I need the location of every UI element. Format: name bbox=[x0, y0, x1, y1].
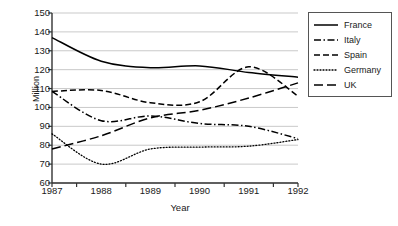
series-line-italy bbox=[52, 91, 298, 138]
y-tick-label: 90 bbox=[24, 121, 50, 131]
legend-item-germany[interactable]: Germany bbox=[309, 62, 391, 77]
series-line-spain bbox=[52, 67, 298, 105]
x-tick-label: 1990 bbox=[180, 185, 220, 196]
legend-label: Spain bbox=[344, 50, 367, 60]
series-line-germany bbox=[52, 134, 298, 165]
line-chart: Million 60708090100110120130140150 19871… bbox=[0, 0, 398, 226]
x-tick-label: 1991 bbox=[229, 185, 269, 196]
x-tick-label: 1988 bbox=[81, 185, 121, 196]
legend: FranceItalySpainGermanyUK bbox=[308, 12, 392, 97]
y-tick-label: 70 bbox=[24, 159, 50, 169]
legend-item-italy[interactable]: Italy bbox=[309, 32, 391, 47]
legend-swatch-icon bbox=[313, 80, 339, 90]
legend-item-france[interactable]: France bbox=[309, 17, 391, 32]
x-axis-tick-labels: 198719881989199019911992 bbox=[0, 185, 398, 199]
y-tick-label: 80 bbox=[24, 140, 50, 150]
legend-swatch-icon bbox=[313, 20, 339, 30]
legend-label: UK bbox=[344, 80, 357, 90]
legend-label: Germany bbox=[344, 65, 381, 75]
y-tick-label: 110 bbox=[24, 84, 50, 94]
x-tick-label: 1989 bbox=[130, 185, 170, 196]
x-tick-label: 1992 bbox=[278, 185, 318, 196]
legend-item-uk[interactable]: UK bbox=[309, 77, 391, 92]
y-tick-label: 140 bbox=[24, 27, 50, 37]
y-tick-label: 120 bbox=[24, 65, 50, 75]
legend-swatch-icon bbox=[313, 50, 339, 60]
series-line-france bbox=[52, 38, 298, 78]
legend-item-spain[interactable]: Spain bbox=[309, 47, 391, 62]
y-tick-label: 150 bbox=[24, 8, 50, 18]
legend-label: Italy bbox=[344, 35, 361, 45]
legend-swatch-icon bbox=[313, 35, 339, 45]
legend-label: France bbox=[344, 20, 372, 30]
x-tick-label: 1987 bbox=[32, 185, 72, 196]
legend-swatch-icon bbox=[313, 65, 339, 75]
y-tick-label: 100 bbox=[24, 102, 50, 112]
y-tick-label: 130 bbox=[24, 46, 50, 56]
x-axis-label: Year bbox=[55, 202, 305, 213]
